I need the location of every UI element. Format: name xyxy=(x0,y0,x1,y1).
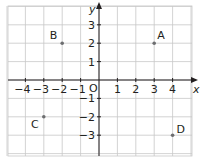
point-marker-icon xyxy=(152,41,156,45)
x-tick-label: 3 xyxy=(151,83,158,96)
tick-labels: xyO−4−3−2−11234321−1−2−3 xyxy=(14,3,200,142)
point-label: C xyxy=(31,118,39,131)
point-marker-icon xyxy=(60,41,64,45)
y-tick-label: 1 xyxy=(88,56,95,69)
y-tick-label: −1 xyxy=(79,92,95,105)
x-tick-label: −4 xyxy=(14,83,30,96)
x-tick-label: 4 xyxy=(169,83,176,96)
coordinate-grid: xyO−4−3−2−11234321−1−2−3 ABCD xyxy=(0,0,201,162)
y-axis-label: y xyxy=(88,3,96,16)
x-axis-label: x xyxy=(192,83,200,96)
point-marker-icon xyxy=(171,133,175,137)
x-tick-label: 1 xyxy=(114,83,121,96)
y-axis-arrow-icon xyxy=(96,2,102,9)
x-tick-label: −2 xyxy=(51,83,67,96)
y-tick-label: −3 xyxy=(79,129,95,142)
point-label: A xyxy=(157,29,165,42)
point-marker-icon xyxy=(42,115,46,119)
x-tick-label: 2 xyxy=(132,83,139,96)
y-tick-label: 2 xyxy=(88,37,95,50)
point-label: B xyxy=(50,29,58,42)
y-tick-label: 3 xyxy=(88,19,95,32)
y-tick-label: −2 xyxy=(79,111,95,124)
point-label: D xyxy=(177,123,185,136)
x-tick-label: −3 xyxy=(33,83,49,96)
